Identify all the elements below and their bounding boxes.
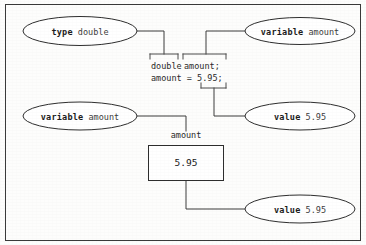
- diagram-canvas: double amount; amount = 5.95; amount 5.9…: [0, 0, 366, 245]
- callout-variable-amount-top-text: variable amount: [261, 27, 339, 37]
- bracket-over-type: [150, 54, 178, 59]
- callout-variable-amount-top[interactable]: variable amount: [245, 18, 355, 45]
- connector-box-to-bottom-callout: [186, 181, 245, 209]
- connector-type-to-code: [137, 31, 164, 54]
- callout-value-595-bottom-text: value 5.95: [274, 205, 326, 215]
- code-line1-type: double: [151, 61, 182, 71]
- connector-value-to-middle-callout: [214, 88, 245, 116]
- callout-value-595-bottom[interactable]: value 5.95: [245, 195, 355, 223]
- callout-value-595-middle[interactable]: value 5.95: [245, 102, 355, 130]
- connector-variable-to-box: [137, 116, 186, 131]
- memory-box-value: 5.95: [175, 157, 198, 168]
- callout-value-595-middle-text: value 5.95: [274, 112, 326, 122]
- bracket-over-variable: [183, 54, 226, 59]
- callout-type-double[interactable]: type double: [23, 17, 137, 46]
- bracket-under-value: [201, 83, 226, 88]
- code-line1-variable: amount;: [184, 61, 220, 71]
- callout-variable-amount-bottom[interactable]: variable amount: [23, 102, 137, 130]
- connector-variable-to-code: [206, 31, 245, 54]
- callout-type-double-text: type double: [51, 27, 108, 37]
- memory-box-label: amount: [171, 130, 202, 140]
- variable-declaration-figure: double amount; amount = 5.95; amount 5.9…: [0, 0, 366, 245]
- code-line2: amount = 5.95;: [151, 73, 223, 83]
- callout-variable-amount-bottom-text: variable amount: [41, 112, 119, 122]
